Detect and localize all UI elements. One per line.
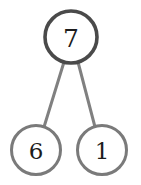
number-bond-diagram: 7 6 1 bbox=[0, 0, 141, 185]
part-node-label-left: 6 bbox=[29, 138, 44, 164]
part-node-label-right: 1 bbox=[95, 138, 110, 164]
connector-line-right bbox=[78, 62, 95, 127]
whole-node-label: 7 bbox=[63, 24, 79, 53]
connector-line-left bbox=[44, 62, 64, 127]
number-bond-canvas: 7 6 1 bbox=[0, 0, 141, 185]
